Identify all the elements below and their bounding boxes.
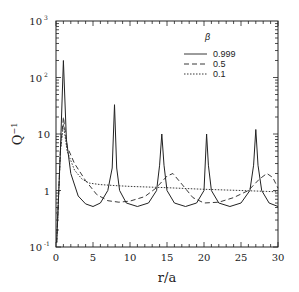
legend-label: 0.999 bbox=[213, 49, 236, 59]
series-line-solid bbox=[57, 61, 278, 243]
x-tick-label: 20 bbox=[198, 252, 211, 263]
data-series bbox=[57, 61, 278, 243]
y-tick-label: 10 bbox=[29, 242, 42, 253]
x-tick-label: 15 bbox=[161, 252, 174, 263]
legend-label: 0.5 bbox=[213, 59, 226, 69]
series-line-dotted bbox=[57, 124, 278, 242]
y-axis-title: Q−1 bbox=[10, 123, 25, 145]
y-tick-label: 10 bbox=[29, 16, 42, 27]
axis-ticks bbox=[56, 21, 278, 247]
series-line-dashed bbox=[57, 117, 278, 243]
y-tick-label: 10 bbox=[29, 73, 42, 84]
svg-text:3: 3 bbox=[44, 14, 48, 21]
legend: β 0.9990.50.1 bbox=[184, 32, 236, 79]
y-tick-label: 10 bbox=[37, 129, 50, 140]
svg-text:Q−1: Q−1 bbox=[10, 123, 25, 145]
x-axis-title: r/a bbox=[158, 270, 177, 285]
y-tick-label: 1 bbox=[44, 186, 50, 197]
x-tick-label: 10 bbox=[124, 252, 137, 263]
y-tick-labels: 10310210110-1 bbox=[29, 14, 50, 253]
legend-title: β bbox=[204, 32, 210, 42]
x-tick-label: 30 bbox=[272, 252, 285, 263]
chart: 051015202530 10310210110-1 r/a Q−1 β 0.9… bbox=[0, 0, 299, 292]
x-tick-labels: 051015202530 bbox=[53, 252, 285, 263]
svg-text:2: 2 bbox=[44, 71, 48, 78]
x-tick-label: 0 bbox=[53, 252, 59, 263]
plot-frame bbox=[56, 21, 278, 247]
x-tick-label: 25 bbox=[235, 252, 248, 263]
svg-text:-1: -1 bbox=[44, 240, 50, 247]
x-tick-label: 5 bbox=[90, 252, 96, 263]
legend-label: 0.1 bbox=[213, 69, 226, 79]
